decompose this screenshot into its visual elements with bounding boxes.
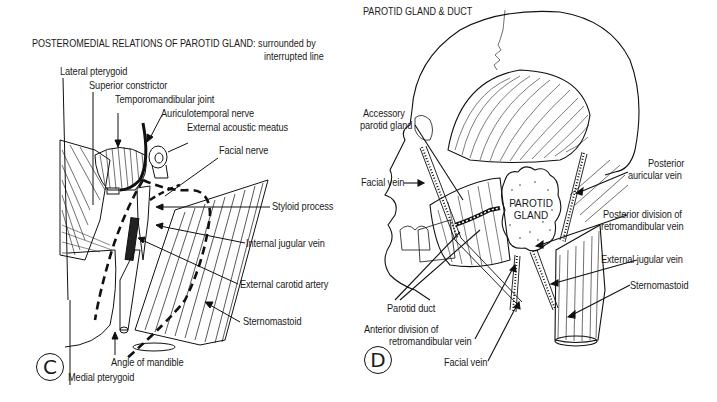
- label-angle-of-mandible: Angle of mandible: [111, 357, 183, 368]
- label-sternomastoid-d: Sternomastoid: [630, 280, 688, 291]
- label-external-jugular-vein: External jugular vein: [601, 254, 683, 265]
- label-anterior-division-line1: Anterior division of: [364, 324, 438, 335]
- label-external-carotid-artery: External carotid artery: [240, 279, 328, 290]
- label-accessory-parotid-line1: Accessory: [363, 108, 405, 119]
- label-superior-constrictor: Superior constrictor: [89, 80, 167, 91]
- panel-c-badge: C: [36, 353, 64, 381]
- label-facial-vein-lower: Facial vein: [444, 357, 487, 368]
- label-facial-nerve: Facial nerve: [219, 145, 268, 156]
- label-posterior-auricular-line1: Posterior: [648, 158, 684, 169]
- panel-c-posteromedial-relations: POSTEROMEDIAL RELATIONS OF PAROTID GLAND…: [0, 0, 360, 402]
- label-medial-pterygoid: Medial pterygoid: [68, 372, 134, 383]
- gland-label-line1: PAROTID: [508, 198, 554, 210]
- label-temporomandibular-joint: Temporomandibular joint: [115, 94, 214, 105]
- panel-c-title: POSTEROMEDIAL RELATIONS OF PAROTID GLAND…: [32, 37, 316, 49]
- label-styloid-process: Styloid process: [272, 201, 333, 212]
- panel-c-title-line2: interrupted line: [264, 50, 324, 62]
- label-posterior-division-line2: retromandibular vein: [601, 221, 683, 232]
- label-anterior-division-line2: retromandibular vein: [389, 336, 471, 347]
- label-posterior-division-line1: Posterior division of: [603, 209, 682, 220]
- gland-label: PAROTID GLAND: [508, 198, 554, 222]
- label-posterior-auricular-line2: auricular vein: [628, 170, 682, 181]
- label-accessory-parotid-line2: parotid gland: [360, 120, 412, 131]
- panel-d-title: PAROTID GLAND & DUCT: [363, 5, 472, 17]
- label-parotid-duct: Parotid duct: [387, 303, 435, 314]
- panel-d-parotid-gland-duct: PAROTID GLAND & DUCT PAROTID GLAND Acces…: [360, 0, 717, 402]
- label-auriculotemporal-nerve: Auriculotemporal nerve: [161, 108, 254, 119]
- label-lateral-pterygoid: Lateral pterygoid: [60, 66, 127, 77]
- panel-d-badge: D: [364, 346, 392, 374]
- label-external-acoustic-meatus: External acoustic meatus: [187, 122, 288, 133]
- label-internal-jugular-vein: Internal jugular vein: [246, 238, 325, 249]
- label-sternomastoid-c: Sternomastoid: [243, 316, 301, 327]
- label-facial-vein-upper: Facial vein: [361, 177, 404, 188]
- gland-label-line2: GLAND: [508, 210, 554, 222]
